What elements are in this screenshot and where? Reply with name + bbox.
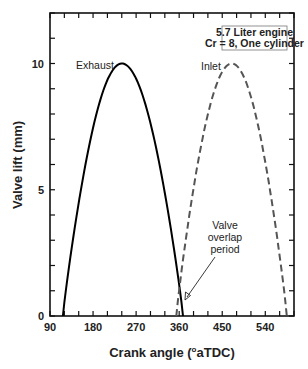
overlap-arrow: [187, 257, 215, 297]
inlet-curve: [176, 64, 286, 317]
x-axis-title: Crank angle (oaTDC): [109, 345, 235, 360]
legend-line-2: Cr = 8, One cylinder: [205, 37, 304, 49]
exhaust-label: Exhaust: [76, 59, 114, 71]
overlap-label-line-1: Valve: [212, 219, 238, 231]
inlet-label: Inlet: [201, 60, 221, 72]
x-tick-labels: 90180270360450540: [44, 321, 275, 333]
x-tick-label: 450: [213, 321, 231, 333]
y-tick-labels: 0510: [32, 58, 44, 323]
x-tick-label: 360: [170, 321, 188, 333]
x-tick-label: 270: [127, 321, 145, 333]
valve-lift-chart: 90180270360450540 0510 Exhaust Inlet 5.7…: [0, 0, 308, 369]
y-tick-label: 0: [38, 310, 44, 322]
y-tick-label: 10: [32, 58, 44, 70]
overlap-label-line-3: period: [210, 243, 239, 255]
x-tick-label: 540: [256, 321, 274, 333]
overlap-label-line-2: overlap: [208, 231, 243, 243]
x-tick-label: 90: [44, 321, 56, 333]
y-tick-label: 5: [38, 184, 44, 196]
exhaust-curve: [63, 64, 183, 317]
y-axis-title: Valve lift (mm): [10, 121, 25, 209]
x-tick-label: 180: [84, 321, 102, 333]
